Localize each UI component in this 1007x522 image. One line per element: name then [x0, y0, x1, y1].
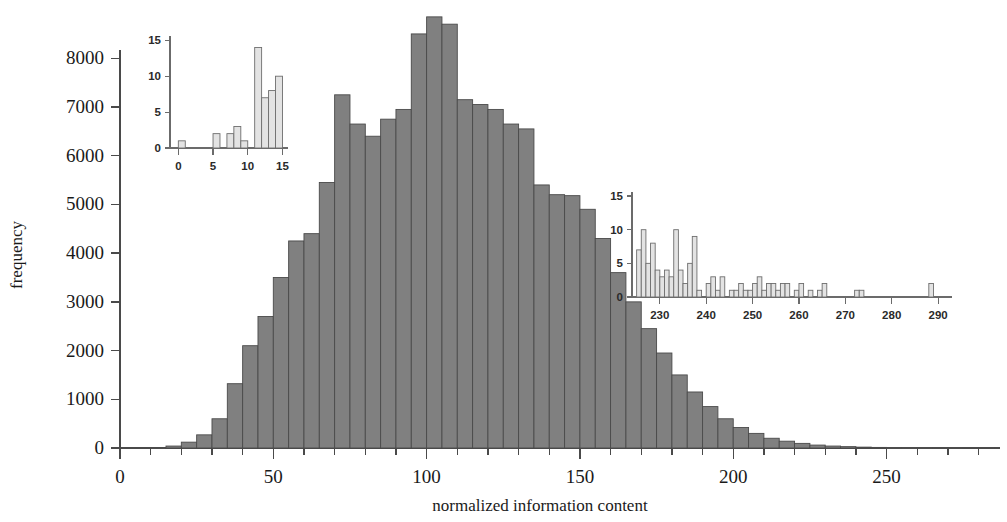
y-tick-label: 0	[95, 437, 105, 458]
histogram-bar	[595, 239, 610, 448]
histogram-bar	[273, 277, 288, 448]
inset-histogram-bar	[766, 284, 771, 297]
inset-histogram-bar	[646, 263, 651, 297]
histogram-bar	[626, 302, 641, 448]
histogram-bar	[212, 419, 227, 448]
histogram-bar	[457, 100, 472, 448]
histogram-bar	[427, 17, 442, 448]
histogram-bar	[473, 105, 488, 448]
histogram-bar	[948, 448, 963, 449]
histogram-bar	[442, 24, 457, 448]
inset-histogram-bar	[178, 141, 185, 148]
histogram-bar	[519, 129, 534, 448]
inset-histogram-bar	[794, 290, 799, 297]
x-axis-title: normalized information content	[432, 496, 648, 515]
histogram-bar	[227, 384, 242, 448]
inset-histogram-bar	[799, 284, 804, 297]
inset-histogram-bar	[269, 91, 276, 148]
histogram-bar	[411, 34, 426, 448]
inset-histogram-bar	[651, 243, 656, 297]
inset-histogram-bar	[734, 290, 739, 297]
inset-histogram-bar	[729, 290, 734, 297]
inset-histogram-bar	[697, 290, 702, 297]
histogram-bar	[335, 95, 350, 448]
inset-chart-left: 051015051015	[148, 34, 289, 172]
histogram-bar	[350, 124, 365, 448]
inset-y-tick-label: 0	[155, 142, 161, 154]
histogram-bar	[779, 441, 794, 448]
histogram-bar	[733, 428, 748, 448]
inset-histogram-bar	[753, 284, 758, 297]
inset-y-tick-label: 10	[148, 70, 161, 82]
inset-y-tick-label: 15	[610, 190, 623, 202]
histogram-bar	[963, 448, 978, 449]
inset-x-tick-label: 0	[175, 160, 181, 172]
inset-histogram-bar	[262, 98, 269, 148]
histogram-figure: frequency normalized information content…	[0, 0, 1007, 522]
inset-y-tick-label: 5	[617, 257, 624, 269]
x-tick-label: 50	[264, 466, 283, 487]
inset-chart-right: 051015230240250260270280290	[610, 190, 952, 321]
histogram-bar	[565, 196, 580, 448]
inset-x-tick-label: 15	[276, 160, 289, 172]
histogram-bar	[289, 241, 304, 448]
histogram-bar	[396, 109, 411, 448]
y-tick-label: 2000	[66, 340, 104, 361]
histogram-bar	[764, 438, 779, 448]
inset-histogram-bar	[678, 270, 683, 297]
histogram-bar	[795, 443, 810, 448]
inset-y-tick-label: 0	[617, 291, 623, 303]
y-axis-title: frequency	[7, 221, 26, 289]
inset-histogram-bar	[637, 250, 642, 297]
inset-histogram-bar	[757, 277, 762, 297]
histogram-bar	[365, 136, 380, 448]
inset-x-tick-label: 270	[836, 309, 855, 321]
x-tick-label: 100	[412, 466, 441, 487]
histogram-bar	[151, 448, 166, 449]
inset-histogram-bar	[743, 290, 748, 297]
histogram-bar	[319, 183, 334, 448]
x-tick-label: 200	[719, 466, 748, 487]
histogram-bar	[917, 448, 932, 449]
inset-histogram-bar	[664, 270, 669, 297]
inset-histogram-bar	[655, 270, 660, 297]
histogram-bar	[657, 353, 672, 448]
y-tick-label: 6000	[66, 145, 104, 166]
inset-histogram-bar	[715, 290, 720, 297]
inset-histogram-bar	[855, 290, 860, 297]
histogram-bar	[979, 448, 994, 449]
x-tick-label: 150	[566, 466, 595, 487]
inset-x-tick-label: 250	[743, 309, 762, 321]
inset-histogram-bar	[748, 290, 753, 297]
inset-histogram-bar	[859, 290, 864, 297]
histogram-bar	[166, 446, 181, 448]
y-tick-label: 5000	[66, 193, 104, 214]
histogram-bar	[488, 109, 503, 448]
y-tick-label: 8000	[66, 47, 104, 68]
inset-histogram-bar	[822, 284, 827, 297]
inset-histogram-bar	[641, 230, 646, 297]
histogram-bar	[871, 447, 886, 448]
x-tick-label: 0	[115, 466, 125, 487]
histogram-bar	[810, 445, 825, 448]
histogram-bar	[641, 329, 656, 448]
y-tick-label: 1000	[66, 388, 104, 409]
histogram-bar	[181, 442, 196, 448]
inset-histogram-bar	[776, 290, 781, 297]
histogram-bar	[503, 124, 518, 448]
inset-histogram-bar	[674, 230, 679, 297]
inset-x-tick-label: 230	[650, 309, 669, 321]
histogram-bar	[304, 234, 319, 448]
y-tick-label: 7000	[66, 96, 104, 117]
inset-histogram-bar	[780, 284, 785, 297]
histogram-bar	[887, 448, 902, 449]
inset-histogram-bar	[720, 277, 725, 297]
histogram-bar	[243, 346, 258, 448]
inset-y-tick-label: 10	[610, 224, 623, 236]
y-tick-label: 4000	[66, 242, 104, 263]
histogram-bar	[933, 448, 948, 449]
inset-histogram-bar	[711, 277, 716, 297]
inset-x-tick-label: 240	[697, 309, 716, 321]
inset-histogram-bar	[762, 290, 767, 297]
histogram-bar	[672, 375, 687, 448]
